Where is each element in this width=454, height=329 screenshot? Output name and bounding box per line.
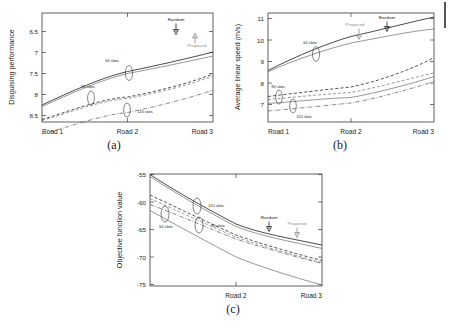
panel-c-proposed-label: Proposed — [288, 221, 307, 226]
panel-a-proposed-label: Proposed — [188, 43, 207, 48]
panel-c-ytick-4: -75 — [137, 281, 147, 288]
panel-a-ytick-3: 8 — [35, 91, 39, 98]
panel-a-random-label: Random — [168, 17, 185, 22]
panel-b-ytick-4: 11 — [258, 15, 265, 22]
panel-c-xtick-road2: Road 2 — [225, 292, 247, 299]
panel-c-slot-label-90: 90 slots — [211, 223, 224, 228]
panel-a-slot-label-120: 120 slots — [137, 109, 153, 114]
panel-c-xtick-road3: Road 3 — [301, 292, 323, 299]
panel-a-annotation-random: Random — [168, 17, 185, 35]
panel-b-ytick-1: 8 — [261, 80, 265, 87]
panel-b-ytick-2: 9 — [261, 58, 265, 65]
panel-a-xtick-road2: Road 2 — [117, 128, 139, 135]
panel-c-annotation-proposed: Proposed — [288, 221, 307, 238]
panel-b-y-axis-label: Average linear speed (m/s) — [233, 24, 242, 110]
panel-b-slot-markers: 60 slots 90 slots 120 slots — [271, 40, 319, 119]
panel-b-xtick-road3: Road 3 — [413, 128, 435, 135]
panel-c-annotation-random: Random — [261, 215, 278, 232]
panel-b-axes — [268, 13, 434, 122]
panel-c-slot-label-60: 60 slots — [159, 224, 172, 229]
panel-b-slot-label-90: 90 slots — [271, 84, 284, 89]
panel-c-ytick-1: -60 — [137, 199, 147, 206]
panel-a-ytick-4: 8.5 — [29, 112, 38, 119]
panel-b-curves — [268, 17, 434, 111]
subplot-c: -55 -60 -65 -70 -75 Objective function v… — [108, 163, 358, 303]
panel-c-caption: (c) — [108, 302, 358, 317]
panel-a-y-axis-label: Disguising performance — [7, 29, 16, 105]
panel-b-xtick-road2: Road 2 — [340, 128, 362, 135]
panel-b-proposed-label: Proposed — [346, 22, 365, 27]
panel-c-ytick-3: -70 — [137, 254, 147, 261]
panel-b-ytick-0: 7 — [261, 101, 265, 108]
subplot-b: 7 8 9 10 11 Average linear speed (m/s) R… — [226, 0, 454, 132]
panel-a-ytick-1: 7 — [35, 49, 39, 56]
panel-a-slot-label-60: 60 slots — [105, 58, 118, 63]
panel-b-random-label: Random — [379, 15, 396, 20]
panel-b-slot-label-60: 60 slots — [303, 40, 316, 45]
panel-a-xtick-road3: Road 3 — [192, 128, 214, 135]
panel-b-xtick-road1: Road 1 — [268, 128, 290, 135]
subplot-a: 6.5 7 7.5 8 8.5 Disguising performance R… — [0, 0, 228, 132]
panel-a-slot-label-90: 90 slots — [81, 84, 94, 89]
panel-a-caption: (a) — [0, 138, 228, 153]
panel-c-y-axis-label: Objective function value — [115, 192, 124, 268]
panel-a-ytick-0: 6.5 — [29, 28, 38, 35]
panel-a-ytick-2: 7.5 — [29, 70, 38, 77]
panel-c-curves — [150, 175, 322, 286]
panel-a-axes — [42, 13, 213, 122]
panel-b-slot-label-120: 120 slots — [296, 114, 312, 119]
panel-a-annotation-proposed: Proposed — [188, 33, 207, 48]
figure-container: 6.5 7 7.5 8 8.5 Disguising performance R… — [0, 0, 454, 329]
panel-c-ytick-0: -55 — [137, 171, 147, 178]
panel-c-slot-label-120: 120 slots — [208, 203, 224, 208]
panel-c-ytick-2: -65 — [137, 226, 147, 233]
panel-b-ytick-3: 10 — [257, 37, 264, 44]
panel-a-slot-markers: 60 slots 90 slots 120 slots — [81, 58, 153, 117]
panel-b-caption: (b) — [226, 138, 454, 153]
panel-c-random-label: Random — [261, 215, 278, 220]
